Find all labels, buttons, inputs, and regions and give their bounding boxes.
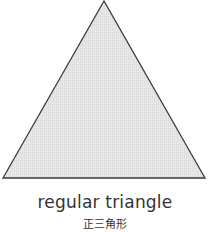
regular-triangle-shape [0, 0, 210, 182]
triangle-polygon [3, 1, 205, 178]
shape-name-english: regular triangle [0, 192, 210, 212]
shape-name-japanese: 正三角形 [0, 215, 210, 231]
